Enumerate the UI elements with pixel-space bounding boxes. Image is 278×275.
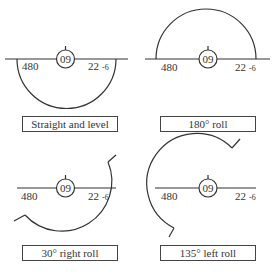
altitude-value: 480 (161, 190, 178, 202)
heading-value: 09 (60, 182, 72, 194)
speed-subscript: -6 (249, 193, 256, 202)
altitude-value: 480 (161, 61, 178, 73)
caption-30-right-roll: 30° right roll (22, 245, 118, 261)
caption-135-left-roll: 135° left roll (160, 245, 256, 261)
caption-180-roll: 180° roll (160, 116, 256, 132)
arc-end-tick (232, 139, 240, 148)
arc-end-tick (169, 228, 174, 237)
heading-value: 09 (203, 53, 215, 65)
arc-end-tick (14, 215, 25, 221)
heading-value: 09 (203, 182, 215, 194)
attitude-diagrams: 09 480 22 -6 09 480 22 -6 09 480 22 -6 0… (0, 0, 278, 275)
attitude-arc (147, 133, 232, 228)
speed-value: 22 (235, 190, 246, 202)
attitude-arc (156, 9, 256, 59)
speed-subscript: -6 (249, 64, 256, 73)
speed-subscript: -6 (102, 63, 109, 72)
heading-value: 09 (60, 53, 72, 65)
speed-value: 22 (235, 61, 246, 73)
panel-135-left-roll (147, 133, 256, 237)
caption-straight-and-level: Straight and level (22, 116, 118, 132)
arc-end-tick (108, 155, 116, 162)
altitude-value: 480 (21, 190, 38, 202)
altitude-value: 480 (22, 60, 39, 72)
speed-value: 22 (88, 190, 99, 202)
speed-value: 22 (88, 60, 99, 72)
speed-subscript: -6 (102, 193, 109, 202)
